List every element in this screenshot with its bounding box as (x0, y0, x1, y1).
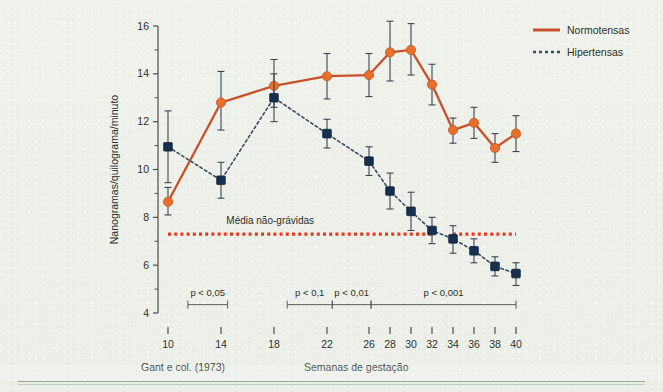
x-axis: 101418222628303234363840 (162, 327, 522, 350)
y-axis-tick-label: 8 (143, 211, 149, 223)
data-point-marker[interactable] (385, 48, 394, 57)
x-axis-tick-label: 10 (162, 338, 174, 350)
data-point-marker[interactable] (365, 157, 374, 166)
data-point-marker[interactable] (406, 45, 415, 54)
data-point-marker[interactable] (407, 207, 416, 216)
series-line (168, 98, 516, 274)
data-point-marker[interactable] (470, 247, 479, 256)
caption-band (0, 366, 663, 380)
legend: NormotensasHipertensas (533, 24, 629, 58)
figure-container: 46810121416Nanogramas/quilograma/minuto1… (0, 0, 663, 392)
x-axis-tick-label: 28 (384, 338, 396, 350)
series-normotensas (163, 21, 520, 215)
data-point-marker[interactable] (270, 93, 279, 102)
pvalue-label: p < 0,01 (334, 287, 369, 298)
data-point-marker[interactable] (511, 129, 520, 138)
x-axis-tick-label: 18 (268, 338, 280, 350)
data-point-marker[interactable] (364, 70, 373, 79)
data-point-marker[interactable] (428, 226, 437, 235)
data-point-marker[interactable] (386, 187, 395, 196)
bottom-rule-primary (18, 381, 645, 382)
data-point-marker[interactable] (163, 197, 172, 206)
pvalue-label: p < 0,05 (190, 287, 225, 298)
legend-label: Normotensas (567, 24, 629, 36)
data-point-marker[interactable] (217, 176, 226, 185)
y-axis-tick-label: 14 (137, 67, 149, 79)
data-point-marker[interactable] (216, 98, 225, 107)
y-axis: 46810121416 (137, 20, 158, 319)
pvalue-annotations: p < 0,05p < 0,1p < 0,01p < 0,001 (188, 287, 516, 309)
data-point-marker[interactable] (427, 80, 436, 89)
data-point-marker[interactable] (164, 142, 173, 151)
data-point-marker[interactable] (490, 143, 499, 152)
x-axis-tick-label: 22 (321, 338, 333, 350)
y-axis-tick-label: 16 (137, 20, 149, 32)
data-point-marker[interactable] (469, 118, 478, 127)
x-axis-tick-label: 34 (447, 338, 459, 350)
chart-canvas: 46810121416Nanogramas/quilograma/minuto1… (0, 0, 663, 392)
x-axis-tick-label: 26 (363, 338, 375, 350)
x-axis-tick-label: 40 (510, 338, 522, 350)
data-point-marker[interactable] (322, 72, 331, 81)
y-axis-tick-label: 10 (137, 163, 149, 175)
x-axis-tick-label: 14 (215, 338, 227, 350)
x-axis-tick-label: 30 (405, 338, 417, 350)
x-axis-tick-label: 38 (489, 338, 501, 350)
reference-line-group: Média não-grávidas (168, 215, 516, 234)
x-axis-tick-label: 32 (426, 338, 438, 350)
data-point-marker[interactable] (449, 235, 458, 244)
x-axis-tick-label: 36 (468, 338, 480, 350)
y-axis-title: Nanogramas/quilograma/minuto (108, 95, 120, 245)
data-point-marker[interactable] (448, 125, 457, 134)
y-axis-tick-label: 12 (137, 115, 149, 127)
pvalue-label: p < 0,001 (424, 287, 464, 298)
data-point-marker[interactable] (491, 262, 500, 271)
data-point-marker[interactable] (323, 129, 332, 138)
y-axis-tick-label: 4 (143, 307, 149, 319)
y-axis-tick-label: 6 (143, 259, 149, 271)
legend-label: Hipertensas (567, 46, 623, 58)
bottom-rule-secondary (18, 384, 645, 385)
reference-line-label: Média não-grávidas (226, 215, 314, 226)
data-point-marker[interactable] (512, 269, 521, 278)
pvalue-label: p < 0,1 (295, 287, 324, 298)
